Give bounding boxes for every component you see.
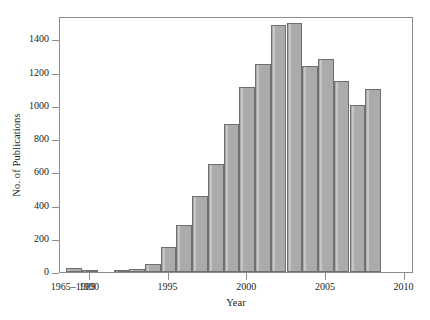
bar-chart-figure: No. of Publications 02004006008001000120… [0,0,430,320]
x-axis-tick [404,273,405,280]
y-axis-tick-label: 0 [5,266,49,277]
x-axis-tick-label: 2005 [315,281,335,292]
x-axis-tick-label: 2000 [236,281,256,292]
bar [302,66,318,272]
y-axis-tick-label: 800 [5,133,49,144]
bar [255,64,271,272]
y-axis-tick [52,240,59,241]
bar [161,247,177,272]
bar-series [60,18,412,272]
bar [208,164,224,272]
y-axis-tick [52,40,59,41]
bar [145,264,161,272]
bar [66,268,82,272]
bar [365,89,381,272]
bar [239,87,255,272]
x-axis-tick-label: 1990 [79,281,99,292]
x-axis-tick [168,273,169,280]
bar [82,270,98,272]
bar [192,196,208,272]
y-axis-tick-label: 200 [5,233,49,244]
y-axis-tick [52,74,59,75]
y-axis-tick [52,173,59,174]
x-axis-title: Year [59,297,413,308]
bar [129,269,145,272]
bar [271,25,287,272]
y-axis-tick-label: 400 [5,200,49,211]
y-axis-tick [52,107,59,108]
x-axis-tick [325,273,326,280]
x-axis-tick-label: 2010 [394,281,414,292]
y-axis-tick-label: 1400 [5,33,49,44]
bar [287,23,303,272]
y-axis-tick-label: 600 [5,166,49,177]
y-axis-tick-label: 1200 [5,67,49,78]
x-axis-tick-label: 1995 [158,281,178,292]
bar [176,225,192,272]
y-axis-tick-label: 1000 [5,100,49,111]
y-axis-tick [52,207,59,208]
bar [334,81,350,272]
bar [224,124,240,272]
bar [114,270,130,272]
bar [350,105,366,272]
y-axis-tick [52,273,59,274]
x-axis-tick [246,273,247,280]
x-axis-tick [89,273,90,280]
y-axis-tick [52,140,59,141]
plot-area [59,17,413,273]
bar [318,59,334,272]
